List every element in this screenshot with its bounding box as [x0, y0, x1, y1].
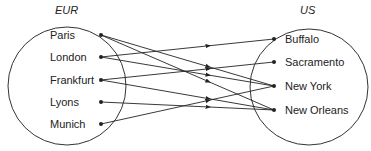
edge-munich-to-new-york [101, 86, 274, 124]
us-label-new-orleans: New Orleans [285, 104, 349, 116]
eur-label-paris: Paris [50, 29, 75, 41]
edge-frankfurt-to-new-orleans [101, 80, 274, 110]
eur-set-title: EUR [55, 4, 78, 16]
eur-label-munich: Munich [50, 118, 85, 130]
eur-label-london: London [50, 51, 87, 63]
edge-london-to-buffalo [101, 39, 274, 57]
dot-frankfurt [99, 78, 103, 82]
dot-new-york [272, 84, 276, 88]
arrowhead-icon [207, 81, 209, 82]
dot-munich [99, 122, 103, 126]
edge-frankfurt-to-sacramento [101, 62, 274, 80]
arrowhead-icon [207, 66, 209, 67]
dot-london [99, 55, 103, 59]
us-set-title: US [300, 4, 315, 16]
us-label-sacramento: Sacramento [285, 56, 344, 68]
edge-london-to-new-york [101, 57, 274, 86]
eur-label-frankfurt: Frankfurt [50, 74, 94, 86]
dot-buffalo [272, 37, 276, 41]
eur-label-lyons: Lyons [50, 96, 79, 108]
edge-paris-to-new-york [101, 35, 274, 86]
dot-paris [99, 33, 103, 37]
mapping-edges [101, 35, 274, 124]
us-label-buffalo: Buffalo [285, 33, 319, 45]
dot-sacramento [272, 60, 276, 64]
dot-new-orleans [272, 108, 276, 112]
edge-lyons-to-new-orleans [101, 102, 274, 110]
dot-lyons [99, 100, 103, 104]
edge-paris-to-new-orleans [101, 35, 274, 110]
us-label-new-york: New York [285, 80, 331, 92]
